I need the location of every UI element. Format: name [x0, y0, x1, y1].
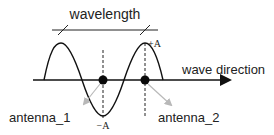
antenna-2-label: antenna_2: [158, 110, 219, 125]
antenna-2-pointer-arrow: [148, 84, 171, 105]
wave-antenna-diagram: wavelength wave direction +A −A antenna_…: [0, 0, 274, 135]
antenna-1-dot: [99, 76, 108, 85]
wavelength-bracket: [52, 25, 158, 35]
antenna-2-dot: [141, 76, 150, 85]
wave-direction-label: wave direction: [181, 62, 265, 77]
trough-amplitude-label: −A: [97, 120, 111, 131]
wavelength-label: wavelength: [69, 6, 141, 22]
antenna-1-label: antenna_1: [9, 110, 70, 125]
peak-amplitude-label: +A: [148, 38, 162, 49]
